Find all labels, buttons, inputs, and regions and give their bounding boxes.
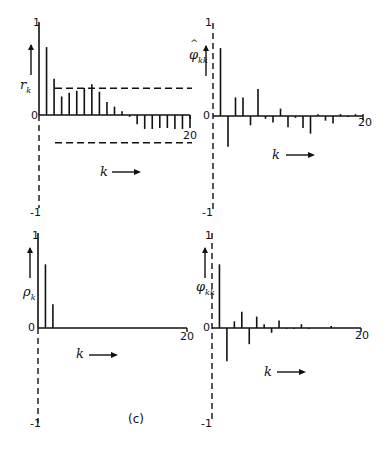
panel1-tick-x: 20 xyxy=(183,130,197,141)
arrow-head-icon xyxy=(134,169,141,175)
arrow-head-icon xyxy=(27,247,33,253)
arrow-head-icon xyxy=(202,247,208,253)
panel2-xlabel: k xyxy=(272,148,280,161)
arrow-head-icon xyxy=(308,152,315,158)
panel1-tick-bottom: -1 xyxy=(30,207,41,218)
panel4-tick-bottom: -1 xyxy=(201,418,212,429)
panel4-tick-zero: 0 xyxy=(203,322,210,333)
panel1-tick-zero: 0 xyxy=(31,110,38,121)
panel1-xlabel: k xyxy=(100,165,108,178)
panel1-tick-top: 1 xyxy=(33,17,40,28)
panel1-ylabel: rk xyxy=(20,78,31,95)
panel3-tick-top: 1 xyxy=(32,230,39,241)
panel4-ylabel: φkk xyxy=(196,280,215,297)
panel3-ylabel: ρk xyxy=(23,285,36,302)
arrow-head-icon xyxy=(111,352,118,358)
panel2-tick-zero: 0 xyxy=(203,110,210,121)
figure-caption: (c) xyxy=(128,413,144,425)
panel4-tick-top: 1 xyxy=(205,230,212,241)
panel3-tick-bottom: -1 xyxy=(30,418,41,429)
panel2-ylabel: ^φkk xyxy=(189,48,208,65)
panel2-tick-bottom: -1 xyxy=(202,207,213,218)
panel3-tick-zero: 0 xyxy=(28,322,35,333)
arrow-head-icon xyxy=(28,44,34,50)
panel4-tick-x: 20 xyxy=(355,330,369,341)
panel3-tick-x: 20 xyxy=(180,331,194,342)
panel3-xlabel: k xyxy=(76,347,84,360)
panel4-xlabel: k xyxy=(264,365,272,378)
panel2-tick-top: 1 xyxy=(205,17,212,28)
arrow-head-icon xyxy=(299,369,306,375)
acf-pacf-figure xyxy=(0,0,391,452)
panel2-tick-x: 20 xyxy=(358,117,372,128)
